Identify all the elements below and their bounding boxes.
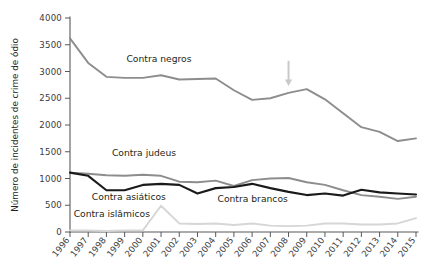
series-label-contra-asi-ticos: Contra asiáticos <box>92 191 166 202</box>
x-tick-label: 2005 <box>214 235 236 259</box>
y-tick-label: 1500 <box>39 147 62 157</box>
x-tick-label: 2009 <box>287 235 309 259</box>
series-label-contra-isl-micos: Contra islâmicos <box>74 208 150 219</box>
series-label-contra-brancos: Contra brancos <box>218 193 289 204</box>
x-tick-label: 2013 <box>360 235 382 259</box>
y-tick-label: 2000 <box>39 120 62 130</box>
series-label-contra-judeus: Contra judeus <box>112 147 176 158</box>
x-tick-label: 2010 <box>305 235 327 259</box>
peak-arrow-icon <box>285 61 292 86</box>
hate-crime-line-chart: 0500100015002000250030003500400019961997… <box>0 0 430 274</box>
y-tick-label: 0 <box>56 227 62 237</box>
chart-canvas: 0500100015002000250030003500400019961997… <box>0 0 430 274</box>
y-axis-title: Número de incidentes de crime de ódio <box>10 38 20 212</box>
x-tick-label: 1998 <box>86 235 108 259</box>
x-tick-label: 1997 <box>68 235 90 259</box>
x-tick-label: 1999 <box>105 235 127 259</box>
x-tick-label: 2001 <box>141 235 163 259</box>
x-tick-label: 2000 <box>123 235 145 259</box>
y-tick-label: 3500 <box>39 40 62 50</box>
x-tick-label: 2003 <box>177 235 199 259</box>
x-tick-label: 2008 <box>269 235 291 259</box>
y-tick-label: 1000 <box>39 174 62 184</box>
series-label-contra-negros: Contra negros <box>126 53 191 64</box>
x-tick-label: 1996 <box>50 235 72 259</box>
y-tick-label: 3000 <box>39 67 62 77</box>
x-tick-label: 2011 <box>323 235 345 259</box>
y-tick-label: 4000 <box>39 13 62 23</box>
y-tick-label: 500 <box>45 200 62 210</box>
x-tick-label: 2007 <box>250 235 272 259</box>
x-tick-label: 2014 <box>378 235 400 259</box>
series-line-contra-negros <box>70 38 416 141</box>
x-tick-label: 2015 <box>396 235 418 259</box>
x-tick-label: 2002 <box>159 235 181 259</box>
y-tick-label: 2500 <box>39 93 62 103</box>
x-tick-label: 2006 <box>232 235 254 259</box>
x-tick-label: 2004 <box>196 235 218 259</box>
x-tick-label: 2012 <box>341 235 363 259</box>
